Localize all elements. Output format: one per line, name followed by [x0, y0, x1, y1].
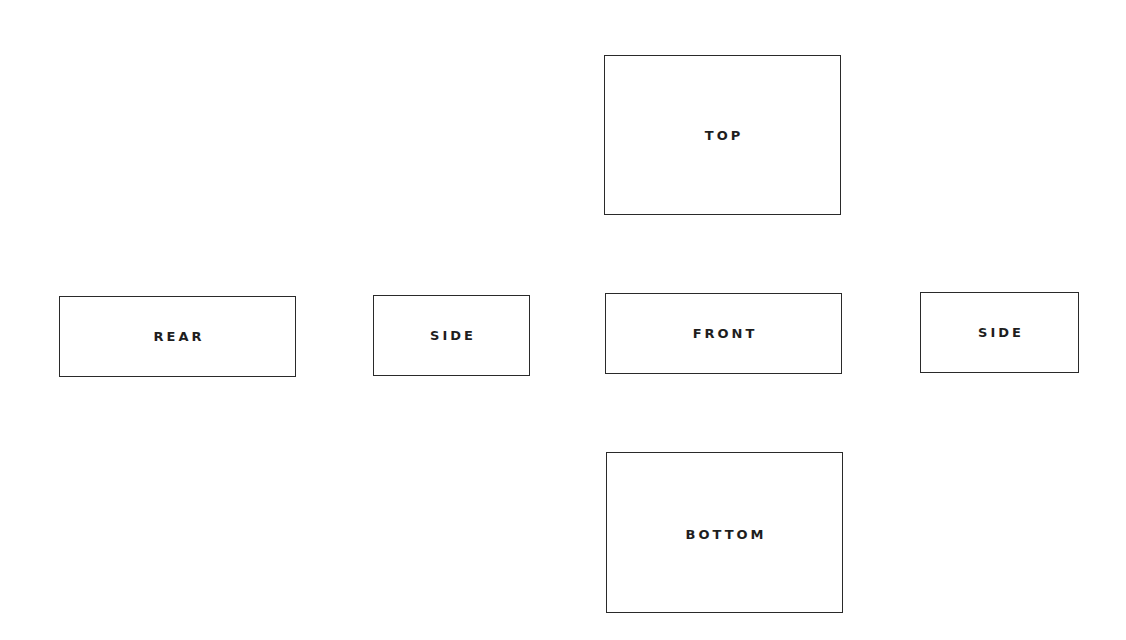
view-label-side-right: SIDE	[975, 325, 1024, 340]
view-label-front: FRONT	[690, 326, 758, 341]
view-box-top: TOP	[604, 55, 841, 215]
view-box-bottom: BOTTOM	[606, 452, 843, 613]
view-box-side-left: SIDE	[373, 295, 530, 376]
view-box-front: FRONT	[605, 293, 842, 374]
view-box-side-right: SIDE	[920, 292, 1079, 373]
view-box-rear: REAR	[59, 296, 296, 377]
view-label-bottom: BOTTOM	[683, 527, 767, 542]
view-label-top: TOP	[702, 128, 743, 143]
view-label-side-left: SIDE	[427, 328, 476, 343]
view-label-rear: REAR	[151, 329, 205, 344]
